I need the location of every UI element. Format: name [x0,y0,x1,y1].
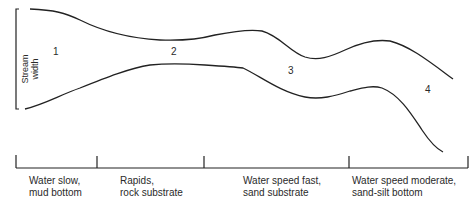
zone-1-description: Water slow, mud bottom [29,175,82,199]
zone-number-1: 1 [53,46,59,57]
stream-upper-bank [30,9,453,79]
stream-width-label: Stream width [20,49,40,89]
stream-lower-bank [25,64,443,152]
stream-width-label-line2: width [30,49,40,89]
zone-number-4: 4 [425,84,431,95]
zone-number-3: 3 [288,65,294,76]
zone-4-description: Water speed moderate, sand-silt bottom [352,175,456,199]
stream-width-label-line1: Stream [20,49,30,89]
zone-2-description: Rapids, rock substrate [120,175,183,199]
stream-width-bracket [16,9,19,109]
zone-number-2: 2 [171,46,177,57]
zone-3-description: Water speed fast, sand substrate [243,175,321,199]
